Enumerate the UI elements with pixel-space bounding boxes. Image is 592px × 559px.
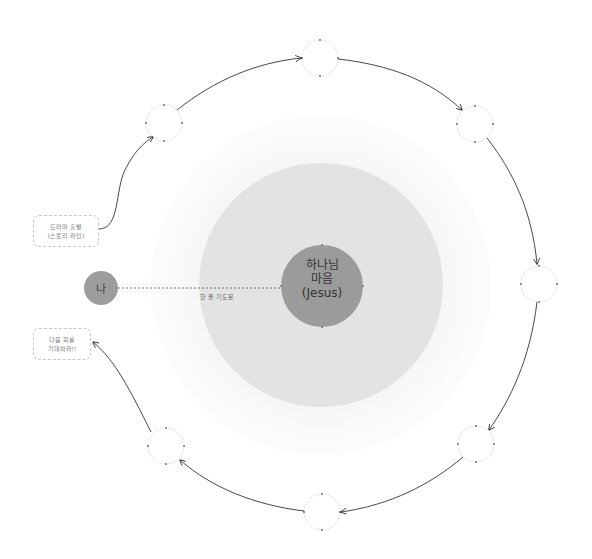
orbit-node-7[interactable] (148, 428, 184, 464)
orbit-node-3[interactable] (457, 106, 493, 142)
arrow-node2-to-node3 (338, 59, 462, 110)
center-label: 하나님 마음 (Jesus) (282, 258, 362, 300)
end-box-line1: 다음 회를 (34, 335, 90, 344)
arrow-start-to-node1 (99, 137, 153, 229)
end-box[interactable]: 다음 회를 기대하라!! (33, 328, 91, 360)
orbit-node-1[interactable] (146, 105, 182, 141)
start-box-line1: 드라마 출발 (34, 222, 98, 231)
arrow-node1-to-node2 (177, 58, 301, 110)
start-box[interactable]: 드라마 출발 (스토리 라인) (33, 215, 99, 247)
arrow-node7-to-end (93, 342, 151, 432)
orbit-node-5[interactable] (458, 426, 494, 462)
orbit-node-6[interactable] (304, 494, 340, 530)
arrow-node5-to-node6 (341, 457, 463, 512)
center-label-line1: 하나님 (282, 258, 362, 272)
end-box-line2: 기대하라!! (34, 344, 90, 353)
orbit-node-2[interactable] (302, 40, 338, 76)
arrow-node6-to-node7 (180, 460, 304, 511)
connector-label: 한 줄 기도문 (200, 292, 234, 301)
center-label-line3: (Jesus) (282, 286, 362, 300)
center-label-line2: 마음 (282, 272, 362, 286)
me-label: 나 (84, 280, 118, 296)
orbit-node-4[interactable] (521, 266, 557, 302)
start-box-line2: (스토리 라인) (34, 231, 98, 240)
